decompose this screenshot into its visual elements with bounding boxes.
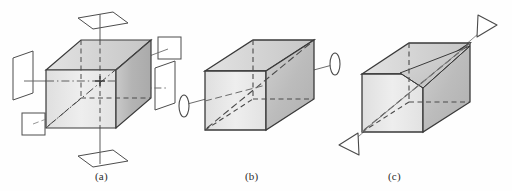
mirror-plane-top [78, 12, 128, 29]
panel-a [13, 12, 181, 167]
lens-symbol-right [330, 53, 340, 75]
mirror-plane-right [155, 61, 175, 110]
prism-b-front-face [205, 71, 266, 130]
mirror-plane-upper-right [158, 37, 181, 59]
panel-a-caption: (a) [95, 170, 108, 182]
prism-b [205, 40, 314, 130]
arrowhead-upper-right [477, 15, 497, 37]
panel-c-caption: (c) [388, 170, 401, 182]
mirror-plane-left [13, 51, 33, 100]
arrowhead-lower-left [339, 133, 359, 155]
panel-b [179, 40, 340, 130]
mirror-plane-bottom [78, 150, 128, 167]
symmetry-diagram-svg [0, 0, 512, 191]
lens-symbol-left [179, 95, 189, 117]
figure-container: (a) (b) (c) [0, 0, 512, 191]
panel-b-caption: (b) [245, 170, 258, 182]
prism-c-front-face [362, 74, 423, 132]
prism-c [362, 43, 470, 132]
prism-a [46, 40, 151, 128]
panel-c [339, 15, 497, 155]
